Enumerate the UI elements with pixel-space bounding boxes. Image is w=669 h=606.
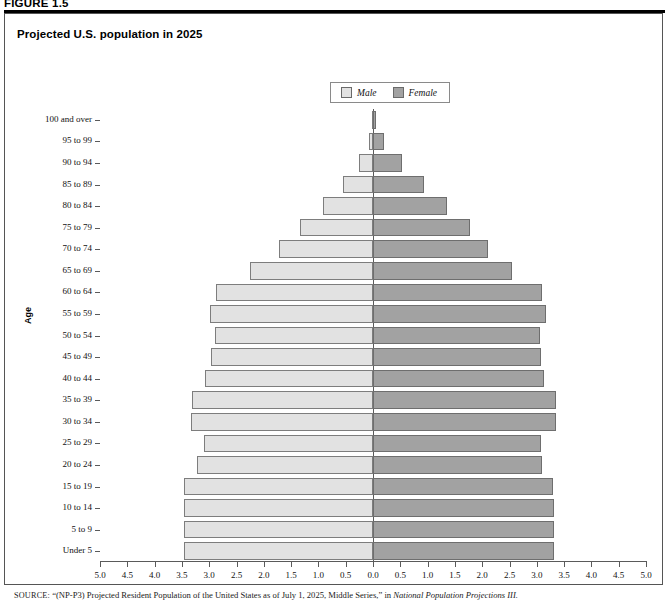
pyramid-row xyxy=(100,282,647,304)
bar-male xyxy=(191,413,373,431)
pyramid-row xyxy=(100,519,647,541)
bar-male xyxy=(192,391,373,409)
figure-label: FIGURE 1.5 xyxy=(4,0,69,9)
bar-male xyxy=(279,240,373,258)
x-axis-tick xyxy=(619,562,620,567)
y-axis-label: 30 to 34 xyxy=(4,416,92,426)
x-axis-tick xyxy=(455,562,456,567)
bar-female xyxy=(373,133,384,151)
y-axis-label: 10 to 14 xyxy=(4,502,92,512)
bar-female xyxy=(373,262,512,280)
y-axis-tick xyxy=(95,206,100,207)
legend-swatch-male-icon xyxy=(341,87,352,98)
x-axis-tick xyxy=(428,562,429,567)
bar-female xyxy=(373,391,556,409)
y-axis-tick xyxy=(95,487,100,488)
y-axis-label: 40 to 44 xyxy=(4,373,92,383)
pyramid-row xyxy=(100,195,647,217)
y-axis-tick xyxy=(95,120,100,121)
x-axis-tick xyxy=(537,562,538,567)
bar-female xyxy=(373,456,542,474)
x-axis-tick xyxy=(482,562,483,567)
x-axis-tick xyxy=(264,562,265,567)
bar-male xyxy=(205,370,373,388)
y-axis-label: 80 to 84 xyxy=(4,200,92,210)
x-axis-tick xyxy=(510,562,511,567)
y-axis-tick xyxy=(95,530,100,531)
y-axis-tick xyxy=(95,185,100,186)
y-axis-label: 50 to 54 xyxy=(4,330,92,340)
y-axis-label: 100 and over xyxy=(4,114,92,124)
source-note: SOURCE: “(NP-P3) Projected Resident Popu… xyxy=(14,590,518,600)
pyramid-row xyxy=(100,411,647,433)
bar-male xyxy=(184,521,373,539)
x-axis-tick xyxy=(646,562,647,567)
legend-entry-male: Male xyxy=(341,87,377,98)
pyramid-row xyxy=(100,325,647,347)
bar-female xyxy=(373,521,554,539)
y-axis-label: Under 5 xyxy=(4,545,92,555)
legend-entry-female: Female xyxy=(393,87,438,98)
y-axis-tick xyxy=(95,314,100,315)
legend-swatch-female-icon xyxy=(393,87,404,98)
bar-male xyxy=(184,499,373,517)
bar-female xyxy=(373,284,542,302)
y-axis-tick xyxy=(95,357,100,358)
pyramid-row xyxy=(100,476,647,498)
bar-male xyxy=(211,348,373,366)
pyramid-row xyxy=(100,260,647,282)
pyramid-row xyxy=(100,346,647,368)
x-axis-tick xyxy=(591,562,592,567)
y-axis-label: 70 to 74 xyxy=(4,243,92,253)
y-axis-label: 75 to 79 xyxy=(4,222,92,232)
bar-male xyxy=(197,456,373,474)
bar-female xyxy=(373,542,554,560)
bar-male xyxy=(323,197,373,215)
y-axis-label: 20 to 24 xyxy=(4,459,92,469)
pyramid-row xyxy=(100,131,647,153)
y-axis-label: 25 to 29 xyxy=(4,437,92,447)
bar-female xyxy=(373,370,544,388)
y-axis-tick xyxy=(95,228,100,229)
x-axis-tick xyxy=(155,562,156,567)
y-axis-tick xyxy=(95,400,100,401)
x-axis-tick xyxy=(400,562,401,567)
y-axis-label: 95 to 99 xyxy=(4,135,92,145)
y-axis-tick xyxy=(95,465,100,466)
bar-female xyxy=(373,413,556,431)
bar-female xyxy=(373,219,470,237)
y-axis-tick xyxy=(95,249,100,250)
bar-female xyxy=(373,327,540,345)
pyramid-row xyxy=(100,109,647,131)
bar-female xyxy=(373,435,541,453)
bar-male xyxy=(184,542,373,560)
y-axis-tick xyxy=(95,141,100,142)
bar-male xyxy=(216,284,373,302)
source-publication-title: National Population Projections III. xyxy=(393,590,518,600)
y-axis-tick xyxy=(95,422,100,423)
y-axis-label: 55 to 59 xyxy=(4,308,92,318)
y-axis-tick xyxy=(95,271,100,272)
y-axis-tick xyxy=(95,551,100,552)
pyramid-row xyxy=(100,303,647,325)
y-axis-tick xyxy=(95,336,100,337)
x-axis-tick xyxy=(127,562,128,567)
x-axis-tick xyxy=(564,562,565,567)
bar-female xyxy=(373,240,488,258)
y-axis-tick xyxy=(95,379,100,380)
bar-male xyxy=(250,262,373,280)
x-axis-tick xyxy=(100,562,101,567)
bar-female xyxy=(373,478,553,496)
plot-area: 100 and over95 to 9990 to 9485 to 8980 t… xyxy=(100,109,647,562)
y-axis-label: 60 to 64 xyxy=(4,286,92,296)
chart-title: Projected U.S. population in 2025 xyxy=(17,28,202,40)
y-axis-tick xyxy=(95,508,100,509)
bar-male xyxy=(184,478,373,496)
x-axis-tick xyxy=(182,562,183,567)
x-axis-label: 5.0 xyxy=(630,570,662,580)
y-axis-tick xyxy=(95,163,100,164)
x-axis-tick xyxy=(373,562,374,567)
y-axis-tick xyxy=(95,443,100,444)
y-axis-label: 85 to 89 xyxy=(4,179,92,189)
figure-panel: Projected U.S. population in 2025 Male F… xyxy=(4,13,663,585)
